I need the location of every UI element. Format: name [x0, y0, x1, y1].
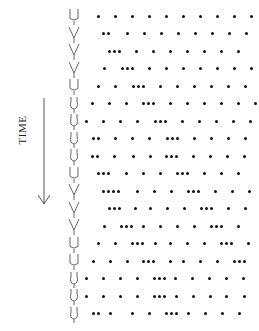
dot [85, 277, 88, 280]
dot [245, 32, 248, 35]
dot [244, 85, 247, 88]
dot [163, 295, 166, 298]
dot [186, 50, 189, 53]
dot [92, 260, 95, 263]
dot [160, 32, 163, 35]
dot [113, 155, 116, 158]
dot [136, 295, 139, 298]
dot [210, 207, 213, 210]
dot [254, 102, 257, 105]
dot [220, 50, 223, 53]
dot [199, 15, 202, 18]
dot [171, 137, 174, 140]
dot [227, 137, 230, 140]
dot [147, 260, 150, 263]
dot [148, 137, 151, 140]
dot [192, 295, 195, 298]
dot [114, 137, 117, 140]
dot [237, 172, 240, 175]
dot [92, 312, 95, 315]
dot [183, 207, 186, 210]
dot [97, 172, 100, 175]
dot [182, 15, 185, 18]
dot [152, 260, 155, 263]
dot [220, 225, 223, 228]
dot [132, 155, 135, 158]
dot [176, 225, 179, 228]
dot [102, 190, 105, 193]
dot [176, 85, 179, 88]
dot [176, 172, 179, 175]
dot [231, 190, 234, 193]
dot [103, 67, 106, 70]
dot [109, 260, 112, 263]
dot [169, 50, 172, 53]
dot [121, 67, 124, 70]
dot [228, 32, 231, 35]
dot [181, 172, 184, 175]
dot [126, 260, 129, 263]
dot [247, 242, 250, 245]
dot [142, 225, 145, 228]
dot [233, 15, 236, 18]
dot [186, 172, 189, 175]
dot [148, 15, 151, 18]
dot [238, 260, 241, 263]
dot [96, 155, 99, 158]
dot [181, 120, 184, 123]
dot [114, 15, 117, 18]
dot [137, 85, 140, 88]
dot [215, 120, 218, 123]
dot [208, 277, 211, 280]
dot [209, 295, 212, 298]
dot [225, 277, 228, 280]
dot [118, 207, 121, 210]
dot [163, 277, 166, 280]
dot [131, 137, 134, 140]
dot [165, 15, 168, 18]
dot [142, 102, 145, 105]
dot [203, 242, 206, 245]
dot [135, 50, 138, 53]
dot [193, 225, 196, 228]
dot [102, 32, 105, 35]
dot [109, 312, 112, 315]
dot [97, 15, 100, 18]
dot [159, 120, 162, 123]
dot [159, 85, 162, 88]
dot [233, 260, 236, 263]
dot [136, 190, 139, 193]
dot [132, 85, 135, 88]
dot [152, 50, 155, 53]
dot [210, 225, 213, 228]
dot [142, 172, 145, 175]
dot [125, 172, 128, 175]
dot [165, 312, 168, 315]
dot [158, 277, 161, 280]
dot [159, 225, 162, 228]
dot [210, 137, 213, 140]
dot [244, 207, 247, 210]
dot [131, 242, 134, 245]
dot [142, 260, 145, 263]
dot [149, 207, 152, 210]
dot [126, 32, 129, 35]
dot [102, 172, 105, 175]
dot [216, 260, 219, 263]
dot [154, 242, 157, 245]
dot [194, 32, 197, 35]
dot [107, 32, 110, 35]
dot [244, 137, 247, 140]
dot [187, 312, 190, 315]
dot [149, 155, 152, 158]
dot [205, 207, 208, 210]
dot [227, 207, 230, 210]
dot [182, 67, 185, 70]
dot [118, 50, 121, 53]
dot [131, 67, 134, 70]
dot [154, 120, 157, 123]
dot [142, 85, 145, 88]
dot [203, 172, 206, 175]
dot [249, 120, 252, 123]
dot [176, 137, 179, 140]
